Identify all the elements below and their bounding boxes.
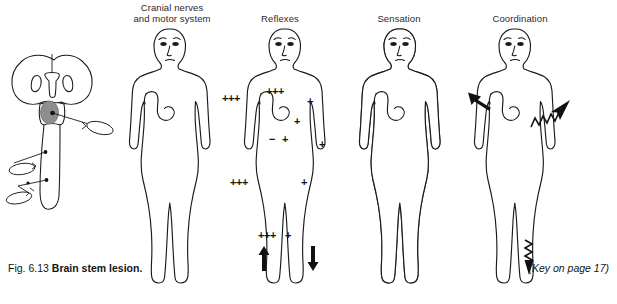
figure-artwork: +++ +++ + + + − + +++ + +++ + [0, 0, 617, 304]
reflex-marker-abdomen-left: − [269, 133, 275, 145]
reflex-marker-right-leg: + [301, 176, 307, 188]
plantar-arrow-down [308, 246, 319, 271]
brain-stem-lesion-diagram [5, 54, 114, 209]
key-reference-note: (Key on page 17) [528, 262, 609, 274]
reflex-marker-left-arm-outer: +++ [222, 92, 240, 104]
column-header-sensation: Sensation [344, 13, 454, 24]
reflex-marker-right-upper-arm: + [307, 95, 313, 107]
reflex-marker-abdomen-right: + [282, 133, 288, 145]
figure-caption-title: Brain stem lesion. [52, 262, 142, 274]
reflexes-figure [244, 29, 325, 283]
reflex-marker-right-ankle: + [285, 229, 291, 241]
reflex-marker-left-leg: +++ [230, 176, 248, 188]
reflex-marker-right-forearm: + [319, 138, 325, 150]
sensation-figure [358, 22, 442, 296]
cranial-nerves-motor-system-figure [129, 29, 210, 283]
reflex-marker-left-ankle: +++ [258, 229, 276, 241]
lesion-marker [41, 101, 59, 124]
figure-caption: Fig. 6.13Brain stem lesion. [8, 262, 142, 274]
column-header-coordination: Coordination [452, 13, 588, 24]
figure-root: Cranial nerves and motor system Reflexes… [0, 0, 617, 304]
column-header-reflexes: Reflexes [222, 13, 338, 24]
column-header-cranial-nerves: Cranial nerves and motor system [108, 2, 236, 24]
reflex-marker-right-elbow: + [294, 115, 300, 127]
coordination-figure [474, 29, 555, 283]
reflex-marker-left-shoulder: +++ [266, 85, 284, 97]
figure-caption-label: Fig. 6.13 [8, 262, 49, 274]
